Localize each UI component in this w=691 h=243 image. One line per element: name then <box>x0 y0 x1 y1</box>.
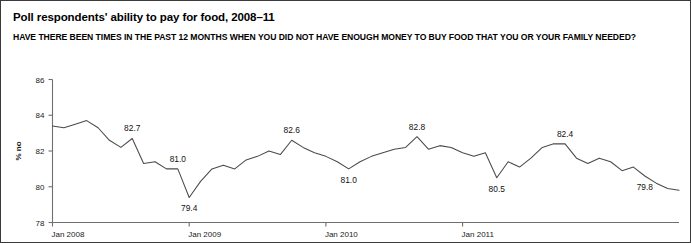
y-tick-label: 84 <box>36 111 45 120</box>
data-point-label: 80.5 <box>489 184 506 194</box>
plot-area: 7880828486 % no Jan 2008Jan 2009Jan 2010… <box>1 1 691 243</box>
data-series-group <box>53 121 680 198</box>
x-tick-label: Jan 2010 <box>325 230 358 239</box>
data-point-label: 82.4 <box>557 129 574 139</box>
y-tick-label: 78 <box>36 219 45 228</box>
y-tick-label: 86 <box>36 76 45 85</box>
line-chart-svg: 7880828486 % no Jan 2008Jan 2009Jan 2010… <box>1 1 691 243</box>
x-tick-label: Jan 2009 <box>188 230 221 239</box>
data-point-label: 81.0 <box>170 154 187 164</box>
chart-figure: Poll respondents' ability to pay for foo… <box>0 0 691 243</box>
y-axis-title: % no <box>14 141 23 160</box>
y-axis: 7880828486 % no <box>14 76 53 228</box>
y-tick-label: 82 <box>36 147 45 156</box>
x-axis: Jan 2008Jan 2009Jan 2010Jan 2011 <box>52 223 680 239</box>
data-point-label: 81.0 <box>341 175 358 185</box>
data-point-label: 82.7 <box>124 123 141 133</box>
data-point-label: 79.8 <box>637 182 654 192</box>
x-tick-group: Jan 2008Jan 2009Jan 2010Jan 2011 <box>52 223 495 239</box>
x-tick-label: Jan 2008 <box>52 230 85 239</box>
series-line-percent-no <box>53 121 680 198</box>
point-label-group: 82.781.079.482.681.082.880.582.479.8 <box>124 122 653 214</box>
data-point-label: 82.8 <box>409 122 426 132</box>
y-tick-label: 80 <box>36 183 45 192</box>
y-tick-group: 7880828486 <box>36 76 53 228</box>
data-point-label: 79.4 <box>181 203 198 213</box>
x-tick-label: Jan 2011 <box>462 230 495 239</box>
data-point-label: 82.6 <box>284 125 301 135</box>
